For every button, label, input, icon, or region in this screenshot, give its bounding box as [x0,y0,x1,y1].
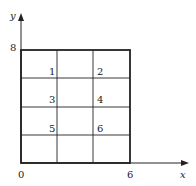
y-axis-label: y [9,10,16,21]
x-axis-label: x [180,169,186,180]
diagram-canvas: y x 8 0 6 1 2 3 4 5 6 [0,0,196,186]
node-label-1: 1 [49,66,55,77]
y-axis-arrow-icon [18,13,24,21]
y-max-tick-label: 8 [10,42,16,53]
x-max-tick-label: 6 [127,169,133,180]
node-label-6: 6 [97,123,103,134]
node-label-2: 2 [97,66,103,77]
origin-tick-label: 0 [18,169,24,180]
node-label-5: 5 [49,123,55,134]
x-axis-arrow-icon [181,160,189,166]
node-label-4: 4 [97,94,103,105]
domain-boundary [21,50,130,163]
node-label-3: 3 [49,94,55,105]
